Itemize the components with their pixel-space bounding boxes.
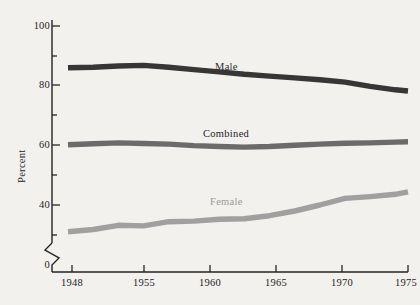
x-tick-label-1970: 1970 <box>322 277 362 288</box>
series-annotation-female: Female <box>210 196 243 207</box>
series-line-combined <box>68 142 408 147</box>
y-tick-label-80: 80 <box>22 79 50 90</box>
y-tick-label-100: 100 <box>22 20 50 31</box>
y-axis-title: Percent <box>16 149 27 183</box>
series-line-male <box>68 65 408 91</box>
x-tick-label-1965: 1965 <box>256 277 296 288</box>
x-tick-label-1960: 1960 <box>190 277 230 288</box>
series-annotation-male: Male <box>215 61 238 72</box>
x-tick-label-1955: 1955 <box>124 277 164 288</box>
x-tick-label-1948: 1948 <box>52 277 92 288</box>
y-tick-label-60: 60 <box>22 139 50 150</box>
series-annotation-combined: Combined <box>203 128 249 139</box>
x-tick-label-1975: 1975 <box>386 277 420 288</box>
y-tick-label-0: 0 <box>22 259 50 270</box>
x-axis-ticks <box>72 265 408 272</box>
chart-container: 100 80 60 40 0 Percent 1948 1955 1960 19… <box>0 0 420 305</box>
chart-plot-area <box>0 0 420 305</box>
y-tick-label-40: 40 <box>22 199 50 210</box>
